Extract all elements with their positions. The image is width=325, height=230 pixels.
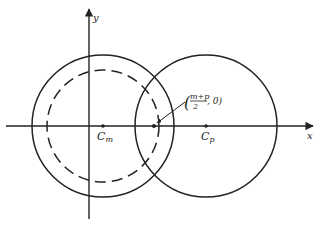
annotation-denominator: 2 (192, 102, 198, 111)
point-cm (101, 124, 105, 128)
x-axis-label: x (307, 130, 313, 141)
annotation-suffix: , 0) (207, 96, 222, 106)
y-axis-label: y (92, 12, 99, 23)
label-cp: Cp (201, 130, 215, 144)
point-midpoint (152, 124, 156, 128)
point-cp (204, 124, 208, 128)
midpoint-annotation: ( m+p 2 , 0) (184, 92, 222, 112)
diagram: Cm Cp y x ( m+p 2 , 0) (0, 0, 325, 230)
label-cm: Cm (97, 130, 113, 144)
